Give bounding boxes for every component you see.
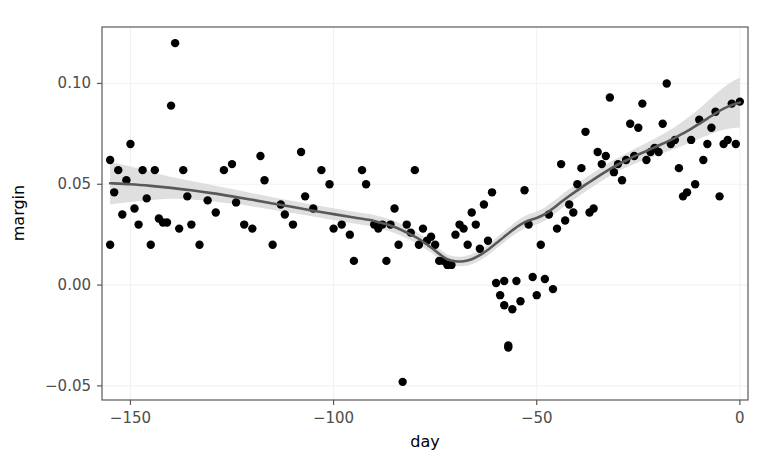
data-point bbox=[203, 196, 211, 204]
x-tick-label: −150 bbox=[110, 409, 151, 427]
data-point bbox=[707, 124, 715, 132]
data-point bbox=[488, 188, 496, 196]
data-point bbox=[537, 241, 545, 249]
data-point bbox=[528, 273, 536, 281]
data-point bbox=[163, 218, 171, 226]
data-point bbox=[195, 241, 203, 249]
data-point bbox=[606, 93, 614, 101]
data-point bbox=[289, 220, 297, 228]
data-point bbox=[179, 166, 187, 174]
data-point bbox=[463, 241, 471, 249]
data-point bbox=[512, 277, 520, 285]
scatter-plot: −150−100−500 −0.050.000.050.10 day margi… bbox=[0, 0, 776, 467]
x-tick-label: −50 bbox=[521, 409, 553, 427]
data-point bbox=[151, 166, 159, 174]
data-point bbox=[256, 152, 264, 160]
x-axis-title: day bbox=[410, 432, 439, 451]
data-point bbox=[715, 192, 723, 200]
data-point bbox=[602, 152, 610, 160]
data-point bbox=[561, 216, 569, 224]
data-point bbox=[472, 220, 480, 228]
data-point bbox=[187, 220, 195, 228]
data-point bbox=[658, 120, 666, 128]
y-tick-label: 0.00 bbox=[58, 276, 91, 294]
x-tick-label: −100 bbox=[313, 409, 354, 427]
data-point bbox=[459, 224, 467, 232]
data-point bbox=[240, 220, 248, 228]
x-tick-label: 0 bbox=[735, 409, 745, 427]
data-point bbox=[398, 378, 406, 386]
data-point bbox=[492, 279, 500, 287]
data-point bbox=[496, 291, 504, 299]
data-point bbox=[642, 156, 650, 164]
data-point bbox=[533, 291, 541, 299]
data-point bbox=[618, 176, 626, 184]
data-point bbox=[699, 156, 707, 164]
data-point bbox=[663, 79, 671, 87]
data-point bbox=[268, 241, 276, 249]
data-point bbox=[593, 148, 601, 156]
data-point bbox=[106, 156, 114, 164]
data-point bbox=[683, 188, 691, 196]
data-point bbox=[687, 136, 695, 144]
data-point bbox=[565, 200, 573, 208]
data-point bbox=[581, 128, 589, 136]
data-point bbox=[553, 224, 561, 232]
data-point bbox=[549, 285, 557, 293]
data-point bbox=[232, 198, 240, 206]
data-point bbox=[338, 220, 346, 228]
data-point bbox=[118, 210, 126, 218]
data-point bbox=[723, 136, 731, 144]
data-point bbox=[476, 245, 484, 253]
data-point bbox=[281, 210, 289, 218]
data-point bbox=[654, 148, 662, 156]
y-tick-label: −0.05 bbox=[45, 377, 91, 395]
data-point bbox=[147, 241, 155, 249]
data-point bbox=[167, 101, 175, 109]
chart-figure: −150−100−500 −0.050.000.050.10 day margi… bbox=[0, 0, 776, 467]
data-point bbox=[598, 160, 606, 168]
data-point bbox=[248, 224, 256, 232]
data-point bbox=[634, 124, 642, 132]
data-point bbox=[638, 99, 646, 107]
data-point bbox=[451, 230, 459, 238]
data-point bbox=[516, 297, 524, 305]
data-point bbox=[520, 186, 528, 194]
data-point bbox=[228, 160, 236, 168]
data-point bbox=[394, 241, 402, 249]
data-point bbox=[589, 204, 597, 212]
data-point bbox=[484, 237, 492, 245]
data-point bbox=[480, 200, 488, 208]
data-point bbox=[329, 224, 337, 232]
data-point bbox=[500, 301, 508, 309]
data-point bbox=[358, 166, 366, 174]
data-point bbox=[325, 180, 333, 188]
data-point bbox=[260, 176, 268, 184]
data-point bbox=[110, 188, 118, 196]
data-point bbox=[732, 140, 740, 148]
data-point bbox=[362, 180, 370, 188]
y-axis-title: margin bbox=[9, 185, 28, 241]
data-point bbox=[183, 192, 191, 200]
data-point bbox=[130, 204, 138, 212]
data-point bbox=[500, 277, 508, 285]
data-point bbox=[390, 204, 398, 212]
data-point bbox=[346, 230, 354, 238]
data-point bbox=[703, 140, 711, 148]
data-point bbox=[419, 224, 427, 232]
data-point bbox=[557, 160, 565, 168]
data-point bbox=[577, 164, 585, 172]
data-point bbox=[171, 39, 179, 47]
data-point bbox=[175, 224, 183, 232]
data-point bbox=[675, 164, 683, 172]
data-point bbox=[508, 305, 516, 313]
data-point bbox=[297, 148, 305, 156]
data-point bbox=[403, 220, 411, 228]
data-point bbox=[427, 232, 435, 240]
data-point bbox=[106, 241, 114, 249]
data-point bbox=[317, 166, 325, 174]
data-point bbox=[134, 220, 142, 228]
data-point bbox=[541, 275, 549, 283]
data-point bbox=[468, 208, 476, 216]
data-point bbox=[138, 166, 146, 174]
